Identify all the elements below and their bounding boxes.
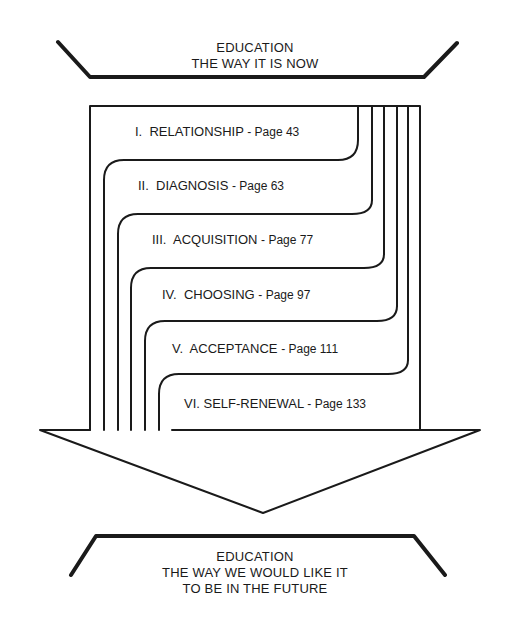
band-path-4 xyxy=(145,306,397,430)
top-label-line2: THE WAY IT IS NOW xyxy=(150,56,360,72)
bottom-label: EDUCATION THE WAY WE WOULD LIKE IT TO BE… xyxy=(130,549,380,597)
bottom-label-line1: EDUCATION xyxy=(130,549,380,565)
top-label: EDUCATION THE WAY IT IS NOW xyxy=(150,40,360,72)
chapter-3: III. ACQUISITION - Page 77 xyxy=(152,232,313,247)
top-label-line1: EDUCATION xyxy=(150,40,360,56)
bottom-label-line3: TO BE IN THE FUTURE xyxy=(130,581,380,597)
chapter-5: V. ACCEPTANCE - Page 111 xyxy=(172,341,338,356)
chapter-2: II. DIAGNOSIS - Page 63 xyxy=(138,178,284,193)
flow-diagram xyxy=(0,0,509,628)
chapter-1: I. RELATIONSHIP - Page 43 xyxy=(135,124,299,139)
arrowhead xyxy=(40,430,480,513)
band-path-5 xyxy=(159,360,408,430)
chapter-6: VI. SELF-RENEWAL - Page 133 xyxy=(184,396,366,411)
bottom-label-line2: THE WAY WE WOULD LIKE IT xyxy=(130,565,380,581)
chapter-4: IV. CHOOSING - Page 97 xyxy=(162,287,310,302)
